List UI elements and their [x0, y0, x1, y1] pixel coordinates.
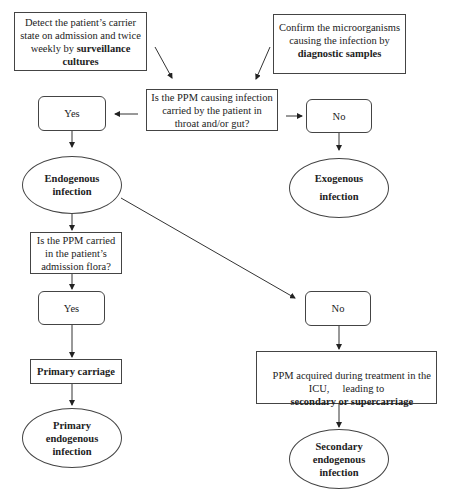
diagnostic-text-bold: diagnostic samples [298, 48, 382, 59]
secondary-endogenous-line2: endogenous [313, 453, 366, 466]
no-2-label: No [332, 302, 345, 315]
no-box-2: No [305, 291, 371, 326]
diagnostic-samples-box: Confirm the microorganisms causing the i… [273, 14, 406, 74]
primary-endogenous-line1: Primary [53, 419, 91, 432]
arrow-endogenous-to-no [121, 198, 295, 298]
surveillance-text: Detect the patient’s carrier state on ad… [15, 16, 146, 68]
secondary-endogenous-line3: infection [319, 466, 358, 479]
no-box-1: No [306, 99, 372, 133]
secondary-carriage-box: PPM acquired during treatment in the ICU… [256, 351, 437, 404]
primary-carriage-box: Primary carriage [30, 359, 122, 384]
endogenous-line1: Endogenous [45, 172, 100, 185]
primary-endogenous-infection-ellipse: Primary endogenous infection [22, 408, 122, 468]
secondary-carriage-text-plain: PPM acquired during treatment in the ICU… [273, 370, 434, 394]
secondary-endogenous-line1: Secondary [315, 440, 362, 453]
secondary-carriage-text-bold: secondary or supercarriage [290, 396, 413, 407]
no-1-label: No [333, 110, 346, 123]
question-flora-text: Is the PPM carried in the patient’s admi… [31, 234, 121, 273]
yes-box-2: Yes [38, 291, 105, 325]
endogenous-infection-ellipse: Endogenous infection [22, 156, 122, 214]
yes-1-label: Yes [64, 107, 79, 120]
primary-carriage-text: Primary carriage [37, 365, 115, 378]
exogenous-line1: Exogenous [315, 170, 363, 188]
arrow-surveillance-to-question [155, 47, 172, 78]
diagnostic-text: Confirm the microorganisms causing the i… [274, 21, 405, 60]
endogenous-line2: infection [52, 185, 91, 198]
surveillance-cultures-box: Detect the patient’s carrier state on ad… [14, 12, 147, 71]
arrow-diagnostic-to-question [256, 47, 270, 79]
question-flora-box: Is the PPM carried in the patient’s admi… [30, 232, 122, 274]
primary-endogenous-line2: endogenous [46, 432, 99, 445]
question-carried-box: Is the PPM causing infection carried by … [146, 89, 278, 131]
secondary-endogenous-infection-ellipse: Secondary endogenous infection [289, 429, 389, 489]
yes-box-1: Yes [38, 96, 106, 131]
exogenous-line2: infection [319, 188, 358, 206]
secondary-carriage-text: PPM acquired during treatment in the ICU… [257, 356, 436, 421]
yes-2-label: Yes [64, 302, 79, 315]
diagnostic-text-plain: Confirm the microorganisms causing the i… [279, 22, 400, 46]
primary-endogenous-line3: infection [52, 445, 91, 458]
question-carried-text: Is the PPM causing infection carried by … [147, 91, 277, 130]
exogenous-infection-ellipse: Exogenous infection [289, 158, 389, 218]
